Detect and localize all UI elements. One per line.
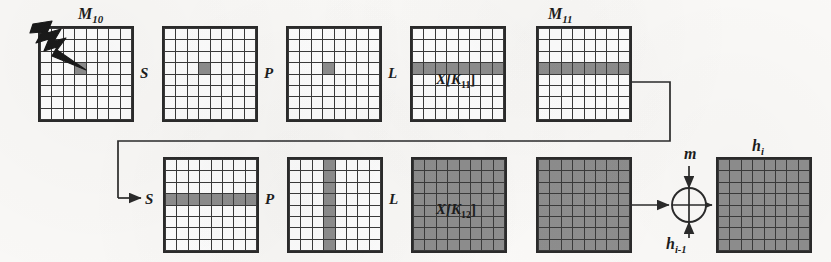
- hash-compression-diagram: M10 M11 S P L X[K11] S P L X[K12] hi m h…: [0, 0, 831, 262]
- lightning-bolt-overlay: [0, 0, 831, 262]
- lightning-bolt-icon: [30, 21, 86, 70]
